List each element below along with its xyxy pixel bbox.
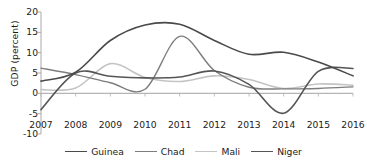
x-tick-label: 2011 xyxy=(168,119,191,130)
x-axis-tick-labels: 2007200820092010201120122013201420152016 xyxy=(41,119,353,133)
y-tick-label: -5 xyxy=(16,109,38,118)
y-tick-label: 15 xyxy=(16,27,38,36)
legend-item-guinea[interactable]: Guinea xyxy=(65,146,124,157)
x-tick-label: 2016 xyxy=(341,119,364,130)
gdp-line-chart: GDP (percent) 20151050-5-10 200720082009… xyxy=(0,0,367,168)
y-axis-tick-labels: 20151050-5-10 xyxy=(12,0,38,168)
plot-area xyxy=(41,12,353,134)
y-tick-label: -10 xyxy=(16,129,38,138)
x-tick-label: 2007 xyxy=(29,119,52,130)
plot-svg xyxy=(41,12,353,134)
legend-swatch-chad xyxy=(135,151,157,152)
y-tick-label: 10 xyxy=(16,48,38,57)
x-tick-label: 2015 xyxy=(307,119,330,130)
legend-label: Chad xyxy=(161,146,185,157)
x-tick-label: 2009 xyxy=(99,119,122,130)
legend-item-niger[interactable]: Niger xyxy=(251,146,302,157)
y-tick-label: 5 xyxy=(16,68,38,77)
chart-legend: GuineaChadMaliNiger xyxy=(0,146,367,157)
legend-label: Mali xyxy=(221,146,240,157)
legend-item-chad[interactable]: Chad xyxy=(135,146,185,157)
legend-swatch-mali xyxy=(195,151,217,152)
legend-swatch-niger xyxy=(251,151,273,152)
x-tick-label: 2008 xyxy=(64,119,87,130)
series-line-chad xyxy=(41,36,353,92)
x-tick-label: 2013 xyxy=(237,119,260,130)
y-tick-label: 20 xyxy=(16,7,38,16)
x-tick-label: 2010 xyxy=(133,119,156,130)
series-line-niger xyxy=(41,67,353,113)
legend-swatch-guinea xyxy=(65,151,87,152)
x-tick-label: 2014 xyxy=(272,119,295,130)
x-tick-label: 2012 xyxy=(203,119,226,130)
y-tick-label: 0 xyxy=(16,88,38,97)
legend-item-mali[interactable]: Mali xyxy=(195,146,240,157)
legend-label: Guinea xyxy=(91,146,124,157)
legend-label: Niger xyxy=(277,146,302,157)
